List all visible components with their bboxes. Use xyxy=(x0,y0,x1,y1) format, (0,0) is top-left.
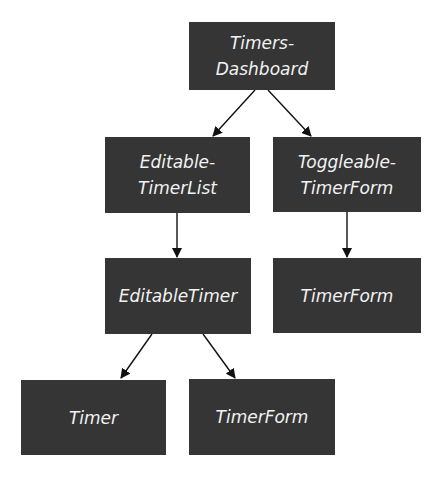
edge-dashboard-to-editable-timer-list xyxy=(213,90,255,136)
node-label-line: TimerForm xyxy=(301,283,394,309)
node-label-line: Timer xyxy=(69,405,118,431)
node-label-line: Dashboard xyxy=(216,56,309,82)
node-editable-timer: EditableTimer xyxy=(105,258,251,334)
component-diagram: Timers- Dashboard Editable- TimerList To… xyxy=(0,0,440,481)
edge-editable-timer-to-timer xyxy=(121,334,152,378)
node-timer: Timer xyxy=(21,380,166,455)
node-label-line: TimerList xyxy=(138,175,217,201)
node-label-line: Toggleable- xyxy=(298,149,396,175)
edge-dashboard-to-toggleable-timer-form xyxy=(268,90,311,136)
edge-editable-timer-to-timer-form xyxy=(203,334,235,378)
node-label-line: TimerForm xyxy=(216,404,309,430)
node-toggleable-timer-form: Toggleable- TimerForm xyxy=(273,137,421,212)
node-timer-form-bottom: TimerForm xyxy=(189,379,335,455)
node-timers-dashboard: Timers- Dashboard xyxy=(189,22,335,90)
node-label-line: EditableTimer xyxy=(119,283,237,309)
node-timer-form-top: TimerForm xyxy=(273,258,421,333)
node-label-line: TimerForm xyxy=(298,175,396,201)
node-label-line: Editable- xyxy=(138,149,217,175)
node-label-line: Timers- xyxy=(216,30,309,56)
node-editable-timer-list: Editable- TimerList xyxy=(105,137,250,213)
